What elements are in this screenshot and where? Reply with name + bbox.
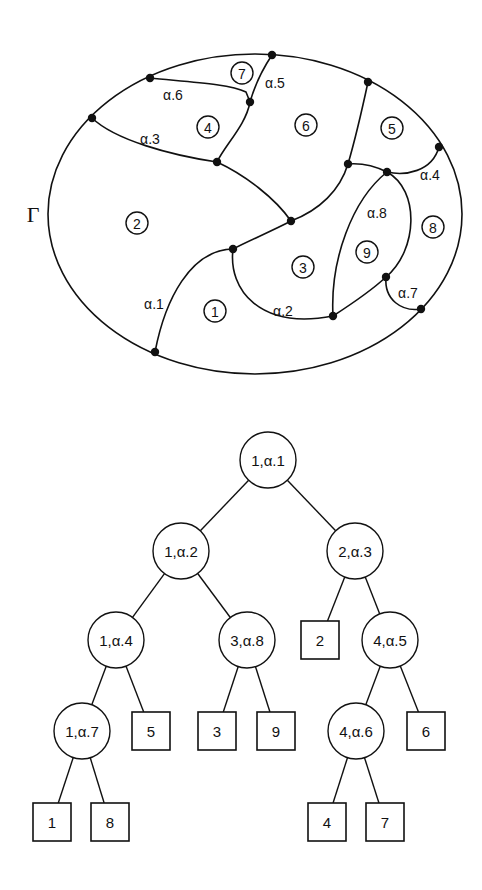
node-label: 3,α.8 bbox=[230, 632, 264, 649]
boundary-gamma bbox=[48, 54, 462, 374]
planar-map-and-tree-diagram: 123456789 α.1α.2α.3α.4α.5α.6α.7α.8 Γ 1,α… bbox=[0, 0, 482, 890]
tree-node-n2: 1,α.2 bbox=[153, 523, 209, 579]
tree-edge bbox=[198, 573, 231, 617]
tree-node-n8: 4,α.6 bbox=[328, 703, 384, 759]
tree-leaf-9: 9 bbox=[257, 712, 295, 750]
tree-edge bbox=[365, 758, 379, 803]
tree-edge bbox=[333, 758, 347, 803]
region-number: 9 bbox=[363, 245, 371, 261]
node-label: 7 bbox=[381, 814, 389, 831]
vertex-G bbox=[229, 245, 237, 253]
node-label: 2,α.3 bbox=[338, 543, 372, 560]
region-number: 7 bbox=[238, 66, 246, 82]
node-label: 2 bbox=[316, 632, 324, 649]
region-2: 2 bbox=[126, 212, 148, 234]
region-8: 8 bbox=[422, 216, 444, 238]
vertex-F bbox=[287, 217, 295, 225]
edge-label: α.8 bbox=[367, 205, 387, 221]
tree-edge bbox=[92, 666, 106, 705]
edge-J-K bbox=[348, 164, 387, 172]
tree-edge bbox=[200, 480, 248, 531]
node-label: 1,α.2 bbox=[164, 543, 198, 560]
node-label: 5 bbox=[147, 723, 155, 740]
tree-node-n3: 2,α.3 bbox=[327, 523, 383, 579]
edge-label: α.3 bbox=[140, 131, 160, 147]
edge-E-F bbox=[217, 162, 291, 221]
tree-edge bbox=[256, 667, 270, 712]
tree-nodes: 1,α.11,α.22,α.31,α.43,α.824,α.51,α.75394… bbox=[33, 432, 445, 841]
region-9: 9 bbox=[356, 241, 378, 263]
region-4: 4 bbox=[197, 116, 219, 138]
node-label: 1,α.7 bbox=[65, 723, 99, 740]
edge-label: α.2 bbox=[273, 303, 293, 319]
vertex-M bbox=[329, 312, 337, 320]
region-7: 7 bbox=[231, 62, 253, 84]
edge-F-G bbox=[233, 221, 291, 249]
gamma-label: Γ bbox=[27, 202, 40, 227]
vertex-K bbox=[383, 168, 391, 176]
tree-node-n4: 1,α.4 bbox=[88, 612, 144, 668]
region-number: 5 bbox=[388, 121, 396, 137]
edge-label: α.1 bbox=[144, 296, 164, 312]
vertex-E bbox=[213, 158, 221, 166]
vertex-N bbox=[417, 305, 425, 313]
vertex-L bbox=[382, 273, 390, 281]
tree-leaf-2: 2 bbox=[301, 621, 339, 659]
vertex-C bbox=[88, 114, 96, 122]
node-label: 4,α.5 bbox=[373, 632, 407, 649]
edge-labels: α.1α.2α.3α.4α.5α.6α.7α.8 bbox=[140, 75, 440, 319]
tree-leaf-7: 7 bbox=[366, 803, 404, 841]
tree-node-n1: 1,α.1 bbox=[240, 432, 296, 488]
edge-label: α.7 bbox=[398, 285, 418, 301]
tree-edge bbox=[400, 666, 418, 712]
edge-M-L bbox=[333, 277, 386, 316]
tree-leaf-1: 1 bbox=[33, 803, 71, 841]
tree-edge bbox=[90, 758, 104, 803]
edge-label: α.5 bbox=[265, 75, 285, 91]
node-label: 1 bbox=[48, 814, 56, 831]
tree-node-n5: 3,α.8 bbox=[219, 612, 275, 668]
vertex-O bbox=[151, 348, 159, 356]
tree-edge bbox=[58, 758, 73, 803]
region-number: 8 bbox=[429, 220, 437, 236]
planar-map: 123456789 α.1α.2α.3α.4α.5α.6α.7α.8 Γ bbox=[27, 51, 462, 374]
tree-node-n6: 4,α.5 bbox=[362, 612, 418, 668]
region-6: 6 bbox=[295, 114, 317, 136]
node-label: 6 bbox=[422, 723, 430, 740]
node-label: 9 bbox=[272, 723, 280, 740]
node-label: 4 bbox=[323, 814, 331, 831]
edge-label: α.4 bbox=[420, 167, 440, 183]
tree-leaf-8: 8 bbox=[91, 803, 129, 841]
vertex-D bbox=[246, 98, 254, 106]
node-label: 4,α.6 bbox=[339, 723, 373, 740]
region-number: 6 bbox=[302, 118, 310, 134]
tree-leaf-6: 6 bbox=[407, 712, 445, 750]
edge-K-L bbox=[386, 172, 411, 277]
edge-D-E bbox=[217, 102, 250, 162]
node-label: 3 bbox=[213, 723, 221, 740]
vertex-H bbox=[364, 78, 372, 86]
region-3: 3 bbox=[292, 256, 314, 278]
tree-edge bbox=[133, 574, 165, 618]
tree-edge bbox=[126, 666, 144, 712]
edge-H-J bbox=[348, 82, 368, 164]
binary-tree: 1,α.11,α.22,α.31,α.43,α.824,α.51,α.75394… bbox=[33, 432, 445, 841]
tree-edge bbox=[327, 577, 344, 621]
region-1: 1 bbox=[204, 300, 226, 322]
tree-leaf-4: 4 bbox=[308, 803, 346, 841]
vertex-B bbox=[146, 74, 154, 82]
edge-label: α.6 bbox=[163, 87, 183, 103]
vertex-I bbox=[435, 143, 443, 151]
vertex-A bbox=[268, 51, 276, 59]
region-number: 1 bbox=[211, 304, 219, 320]
tree-leaf-5: 5 bbox=[132, 712, 170, 750]
node-label: 1,α.1 bbox=[251, 452, 285, 469]
region-number: 2 bbox=[133, 216, 141, 232]
tree-edge bbox=[287, 480, 335, 531]
tree-node-n7: 1,α.7 bbox=[54, 703, 110, 759]
vertex-J bbox=[344, 160, 352, 168]
node-label: 8 bbox=[106, 814, 114, 831]
tree-edge bbox=[365, 577, 380, 614]
edge-F-J bbox=[291, 164, 348, 221]
tree-leaf-3: 3 bbox=[198, 712, 236, 750]
